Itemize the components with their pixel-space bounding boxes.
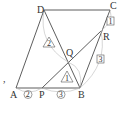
label-q: Q bbox=[66, 47, 74, 58]
label-p: P bbox=[39, 89, 45, 100]
label-c: C bbox=[110, 0, 117, 11]
parallelogram-abcd bbox=[16, 10, 110, 88]
label-b: B bbox=[78, 89, 85, 100]
geometry-diagram: A B C D P Q R 2 3 1 3 2 1 , bbox=[0, 0, 126, 114]
ratio-rb: 3 bbox=[99, 55, 103, 64]
ratio-ap: 2 bbox=[26, 90, 30, 99]
ratio-qb: 1 bbox=[65, 74, 69, 83]
segment-db bbox=[44, 10, 80, 88]
label-d: D bbox=[37, 4, 44, 15]
ratio-cr: 1 bbox=[109, 17, 113, 26]
ratio-pb: 3 bbox=[59, 90, 63, 99]
label-r: R bbox=[103, 31, 110, 42]
ratio-dq: 2 bbox=[47, 39, 51, 48]
label-a: A bbox=[10, 89, 18, 100]
stray-comma: , bbox=[3, 73, 6, 84]
